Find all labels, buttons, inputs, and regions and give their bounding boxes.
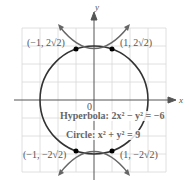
point-label-upper-right: (1, 2√2)	[120, 38, 152, 48]
diagram-canvas: y x 0 (−1, 2√2) (1, 2√2) (−1, −2√2) (1, …	[0, 0, 189, 188]
circle-equation: Circle: x² + y² = 9	[66, 130, 140, 140]
x-axis-label: x	[179, 96, 183, 105]
point-label-lower-left: (−1, −2√2)	[23, 150, 66, 160]
point-label-lower-right: (1, −2√2)	[120, 150, 158, 160]
hyperbola-equation: Hyperbola: 2x² − y² = −6	[60, 111, 164, 121]
y-axis-label: y	[95, 3, 99, 12]
point-label-upper-left: (−1, 2√2)	[27, 38, 65, 48]
